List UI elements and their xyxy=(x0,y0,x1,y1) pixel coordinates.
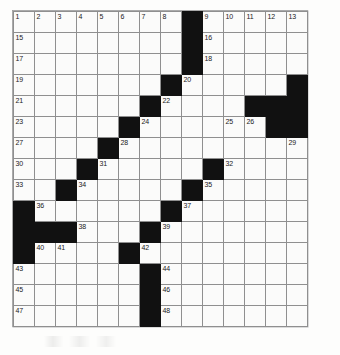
letter-cell[interactable] xyxy=(35,54,56,75)
letter-cell[interactable] xyxy=(161,180,182,201)
letter-cell[interactable]: 45 xyxy=(14,285,35,306)
letter-cell[interactable] xyxy=(56,285,77,306)
letter-cell[interactable] xyxy=(98,96,119,117)
letter-cell[interactable] xyxy=(77,54,98,75)
letter-cell[interactable]: 10 xyxy=(224,12,245,33)
letter-cell[interactable] xyxy=(35,33,56,54)
letter-cell[interactable] xyxy=(161,54,182,75)
letter-cell[interactable] xyxy=(98,54,119,75)
letter-cell[interactable]: 13 xyxy=(287,12,308,33)
letter-cell[interactable] xyxy=(98,264,119,285)
letter-cell[interactable]: 43 xyxy=(14,264,35,285)
letter-cell[interactable]: 47 xyxy=(14,306,35,327)
letter-cell[interactable]: 32 xyxy=(224,159,245,180)
letter-cell[interactable] xyxy=(77,96,98,117)
letter-cell[interactable] xyxy=(119,306,140,327)
letter-cell[interactable] xyxy=(203,75,224,96)
letter-cell[interactable] xyxy=(77,117,98,138)
letter-cell[interactable] xyxy=(182,159,203,180)
letter-cell[interactable] xyxy=(140,54,161,75)
letter-cell[interactable] xyxy=(35,180,56,201)
letter-cell[interactable] xyxy=(245,180,266,201)
letter-cell[interactable]: 20 xyxy=(182,75,203,96)
letter-cell[interactable] xyxy=(224,54,245,75)
letter-cell[interactable] xyxy=(119,33,140,54)
letter-cell[interactable] xyxy=(98,222,119,243)
letter-cell[interactable]: 2 xyxy=(35,12,56,33)
letter-cell[interactable] xyxy=(245,285,266,306)
letter-cell[interactable] xyxy=(98,201,119,222)
letter-cell[interactable]: 48 xyxy=(161,306,182,327)
letter-cell[interactable] xyxy=(56,306,77,327)
letter-cell[interactable] xyxy=(119,222,140,243)
letter-cell[interactable] xyxy=(77,264,98,285)
letter-cell[interactable] xyxy=(203,201,224,222)
letter-cell[interactable] xyxy=(35,264,56,285)
letter-cell[interactable] xyxy=(266,33,287,54)
letter-cell[interactable] xyxy=(224,264,245,285)
letter-cell[interactable] xyxy=(56,159,77,180)
letter-cell[interactable] xyxy=(77,201,98,222)
letter-cell[interactable] xyxy=(77,243,98,264)
letter-cell[interactable] xyxy=(119,180,140,201)
letter-cell[interactable]: 27 xyxy=(14,138,35,159)
letter-cell[interactable]: 26 xyxy=(245,117,266,138)
letter-cell[interactable] xyxy=(98,75,119,96)
letter-cell[interactable] xyxy=(287,222,308,243)
letter-cell[interactable]: 35 xyxy=(203,180,224,201)
letter-cell[interactable] xyxy=(98,180,119,201)
letter-cell[interactable] xyxy=(98,33,119,54)
letter-cell[interactable] xyxy=(224,201,245,222)
letter-cell[interactable]: 7 xyxy=(140,12,161,33)
letter-cell[interactable] xyxy=(203,264,224,285)
letter-cell[interactable] xyxy=(119,96,140,117)
letter-cell[interactable] xyxy=(56,264,77,285)
letter-cell[interactable] xyxy=(56,117,77,138)
letter-cell[interactable] xyxy=(56,54,77,75)
letter-cell[interactable] xyxy=(35,159,56,180)
letter-cell[interactable] xyxy=(56,138,77,159)
letter-cell[interactable] xyxy=(119,285,140,306)
letter-cell[interactable]: 22 xyxy=(161,96,182,117)
letter-cell[interactable] xyxy=(203,222,224,243)
letter-cell[interactable] xyxy=(119,75,140,96)
letter-cell[interactable]: 9 xyxy=(203,12,224,33)
letter-cell[interactable]: 31 xyxy=(98,159,119,180)
letter-cell[interactable] xyxy=(140,138,161,159)
letter-cell[interactable] xyxy=(245,75,266,96)
letter-cell[interactable] xyxy=(35,96,56,117)
letter-cell[interactable] xyxy=(203,285,224,306)
letter-cell[interactable] xyxy=(140,201,161,222)
letter-cell[interactable] xyxy=(287,33,308,54)
letter-cell[interactable] xyxy=(119,54,140,75)
letter-cell[interactable] xyxy=(119,201,140,222)
letter-cell[interactable]: 29 xyxy=(287,138,308,159)
letter-cell[interactable] xyxy=(245,54,266,75)
letter-cell[interactable] xyxy=(77,138,98,159)
letter-cell[interactable] xyxy=(287,180,308,201)
letter-cell[interactable]: 17 xyxy=(14,54,35,75)
letter-cell[interactable]: 23 xyxy=(14,117,35,138)
letter-cell[interactable]: 42 xyxy=(140,243,161,264)
letter-cell[interactable] xyxy=(266,201,287,222)
letter-cell[interactable] xyxy=(266,243,287,264)
letter-cell[interactable] xyxy=(203,96,224,117)
letter-cell[interactable] xyxy=(203,138,224,159)
letter-cell[interactable]: 1 xyxy=(14,12,35,33)
letter-cell[interactable]: 40 xyxy=(35,243,56,264)
letter-cell[interactable] xyxy=(224,33,245,54)
letter-cell[interactable] xyxy=(266,180,287,201)
letter-cell[interactable] xyxy=(56,75,77,96)
letter-cell[interactable]: 39 xyxy=(161,222,182,243)
letter-cell[interactable] xyxy=(35,75,56,96)
letter-cell[interactable] xyxy=(140,159,161,180)
letter-cell[interactable] xyxy=(266,285,287,306)
letter-cell[interactable]: 19 xyxy=(14,75,35,96)
letter-cell[interactable] xyxy=(266,306,287,327)
letter-cell[interactable] xyxy=(266,222,287,243)
letter-cell[interactable] xyxy=(140,180,161,201)
letter-cell[interactable]: 18 xyxy=(203,54,224,75)
letter-cell[interactable] xyxy=(182,222,203,243)
letter-cell[interactable] xyxy=(245,306,266,327)
letter-cell[interactable] xyxy=(224,75,245,96)
